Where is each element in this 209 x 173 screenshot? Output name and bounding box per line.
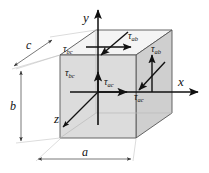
box-body (60, 30, 172, 138)
stress-label-top-bc: τbc (63, 43, 73, 55)
y-axis-label: y (81, 10, 89, 25)
stress-element-figure: y x z c b a τab τb (0, 0, 209, 173)
z-axis-label: z (53, 111, 59, 126)
dimension-a: a (36, 139, 136, 161)
dimension-c-label: c (26, 38, 32, 52)
dimension-b-label: b (10, 99, 16, 113)
x-axis-label: x (177, 74, 184, 89)
dimension-b: b (10, 55, 60, 143)
dimension-a-label: a (82, 145, 88, 159)
